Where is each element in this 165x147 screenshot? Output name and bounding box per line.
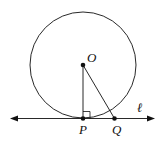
point-p — [81, 116, 86, 121]
label-o: O — [87, 50, 97, 65]
diagram-canvas: O P Q ℓ — [0, 0, 165, 147]
label-p: P — [78, 122, 87, 137]
point-q — [112, 116, 117, 121]
label-line-l: ℓ — [137, 100, 143, 115]
point-o — [81, 63, 86, 68]
left-arrowhead-icon — [10, 116, 18, 122]
segment-oq — [83, 65, 115, 119]
geometry-diagram: O P Q ℓ — [0, 0, 165, 147]
right-arrowhead-icon — [147, 116, 155, 122]
label-q: Q — [112, 122, 122, 137]
